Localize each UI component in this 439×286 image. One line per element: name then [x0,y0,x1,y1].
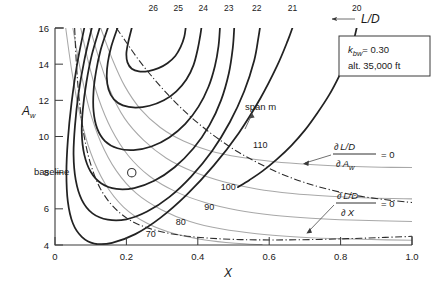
y-ticklabel-14: 14 [38,59,49,70]
x-ticklabel-0.2: 0.2 [120,251,133,262]
ld-pointer-label: L/D [361,12,380,26]
span-label-70: 70 [146,229,156,239]
derivative2-numerator: ∂L/D [337,190,358,201]
x-ticklabel-0.6: 0.6 [263,251,276,262]
x-ticklabel-0.8: 0.8 [334,251,347,262]
ld-label-26: 26 [148,3,158,13]
y-ticklabel-10: 10 [38,131,49,142]
x-ticklabel-0: 0 [52,251,57,262]
ld-label-22: 22 [252,3,262,13]
span-annotation-label: span m [245,101,276,112]
y-ticklabel-6: 6 [44,203,49,214]
ld-label-23: 23 [224,3,234,13]
derivative2-denominator: ∂X [341,207,355,218]
y-ticklabel-16: 16 [38,23,49,34]
ld-label-21: 21 [288,3,298,13]
baseline-label: baseline [34,166,69,177]
y-ticklabel-4: 4 [44,240,49,251]
ld-label-24: 24 [198,3,208,13]
span-label-80: 80 [176,217,186,227]
span-label-110: 110 [253,140,267,150]
derivative1-numerator: ∂L/D [334,141,355,152]
x-ticklabel-1.0: 1.0 [405,251,418,262]
derivative1-equals: = 0 [381,149,394,160]
design-space-chart: 46810121416 00.20.40.60.81.0 Aw X 262524… [0,0,439,286]
span-label-100: 100 [221,182,236,192]
chart-container: 46810121416 00.20.40.60.81.0 Aw X 262524… [0,0,439,286]
ld-label-25: 25 [173,3,183,13]
y-ticklabel-12: 12 [38,95,49,106]
x-ticklabel-0.4: 0.4 [191,251,204,262]
derivative2-equals: = 0 [381,198,394,209]
condition-altitude: alt. 35,000 ft [348,60,401,71]
x-axis-title: X [223,266,233,280]
span-label-90: 90 [204,202,214,212]
